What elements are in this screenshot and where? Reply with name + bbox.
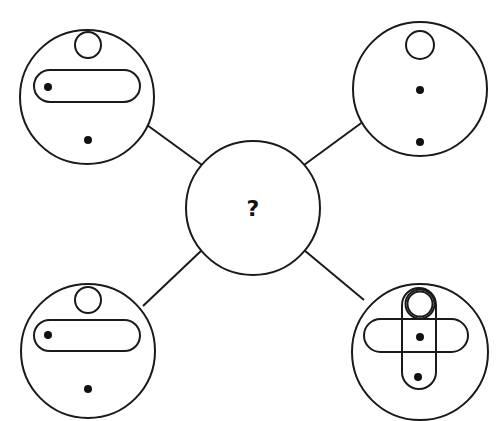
panel-center: ? (186, 141, 320, 275)
panel-top-right (353, 22, 487, 156)
question-mark: ? (247, 196, 260, 221)
puzzle-diagram: ? (0, 0, 496, 421)
dot-icon (416, 138, 424, 146)
connector-top-left (147, 125, 202, 165)
dot-icon (44, 83, 52, 91)
dot-icon (84, 136, 92, 144)
dot-icon (416, 86, 424, 94)
dot-icon (416, 333, 424, 341)
dot-icon (414, 373, 422, 381)
panel-top-left (20, 30, 154, 164)
panel-bottom-left (21, 284, 155, 418)
connector-bottom-right (304, 250, 364, 300)
dot-icon (44, 331, 52, 339)
connector-bottom-left (143, 250, 202, 306)
panel-circle (20, 30, 154, 164)
dot-icon (84, 385, 92, 393)
connector-top-right (304, 121, 364, 165)
panel-bottom-right (352, 284, 488, 420)
